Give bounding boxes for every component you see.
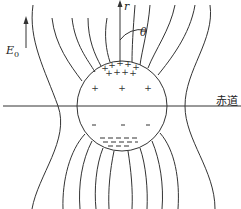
field-line bbox=[158, 5, 195, 75]
field-line bbox=[132, 5, 135, 62]
svg-text:+: + bbox=[91, 83, 99, 93]
svg-text:+: + bbox=[105, 68, 113, 78]
field-line bbox=[152, 141, 163, 209]
svg-text:+: + bbox=[121, 67, 129, 77]
field-label: E0 bbox=[6, 44, 19, 59]
field-line bbox=[109, 151, 114, 209]
svg-text:+: + bbox=[118, 83, 126, 93]
r-axis-label: r bbox=[124, 0, 129, 13]
field-line bbox=[140, 148, 147, 209]
field-arrow-head bbox=[24, 16, 29, 24]
field-line bbox=[95, 148, 103, 209]
field-line bbox=[80, 141, 93, 209]
equator-label: 赤道 bbox=[216, 92, 238, 108]
theta-label: θ bbox=[140, 26, 147, 39]
field-line bbox=[72, 18, 95, 72]
diagram-canvas: +++++ ++++ +++ bbox=[0, 0, 241, 209]
svg-text:+: + bbox=[144, 83, 152, 93]
svg-text:+: + bbox=[129, 68, 137, 78]
field-line bbox=[106, 18, 110, 62]
svg-text:+: + bbox=[113, 67, 121, 77]
r-arrow-head bbox=[118, 0, 123, 7]
field-line bbox=[128, 151, 132, 209]
field-line bbox=[52, 18, 82, 81]
field-line bbox=[185, 5, 215, 209]
field-line bbox=[32, 5, 61, 209]
field-line bbox=[88, 18, 101, 66]
